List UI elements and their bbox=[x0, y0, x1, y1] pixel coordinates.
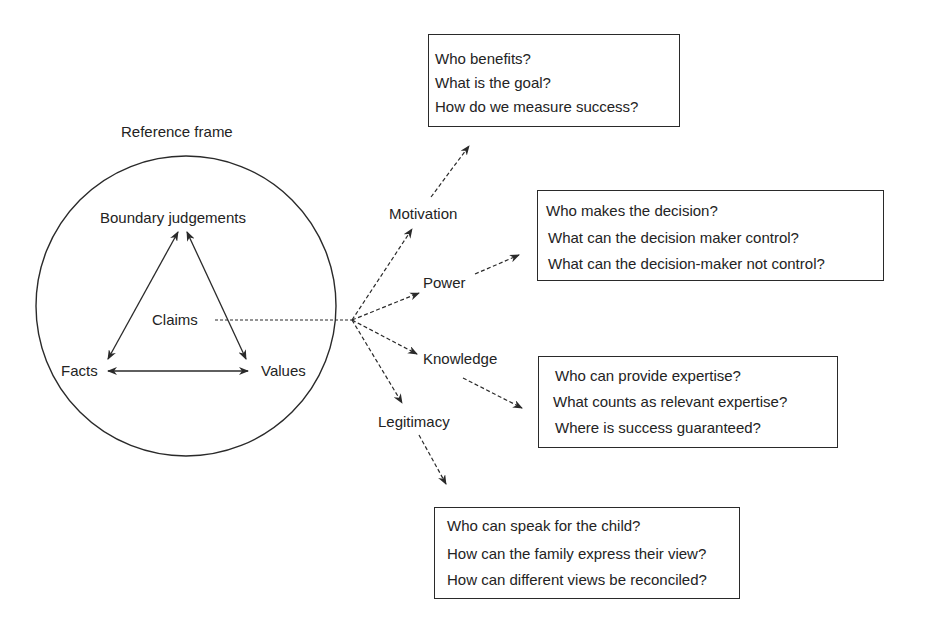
question: Where is success guaranteed? bbox=[555, 420, 761, 436]
question: What can the decision-maker not control? bbox=[548, 256, 825, 272]
dimension-knowledge: Knowledge bbox=[423, 351, 497, 367]
question: What can the decision maker control? bbox=[548, 230, 799, 246]
question: What is the goal? bbox=[435, 75, 551, 91]
arrow-legitimacy-box bbox=[419, 435, 446, 484]
node-claims: Claims bbox=[152, 312, 198, 328]
question: Who benefits? bbox=[435, 51, 531, 67]
dimension-motivation: Motivation bbox=[389, 206, 457, 222]
node-facts: Facts bbox=[61, 363, 98, 379]
arrow-power-box bbox=[475, 255, 519, 274]
reference-frame-circle bbox=[36, 156, 336, 456]
question: How can different views be reconciled? bbox=[447, 572, 707, 588]
question: How do we measure success? bbox=[435, 99, 638, 115]
node-boundary-judgements: Boundary judgements bbox=[100, 210, 246, 226]
question: Who can provide expertise? bbox=[555, 368, 741, 384]
question: Who can speak for the child? bbox=[447, 518, 640, 534]
node-values: Values bbox=[261, 363, 306, 379]
questions-box-motivation: Who benefits? What is the goal? How do w… bbox=[428, 34, 680, 127]
dimension-power: Power bbox=[423, 275, 466, 291]
arrow-knowledge-box bbox=[463, 378, 522, 408]
arrow-hub-power bbox=[352, 293, 419, 320]
arrow-facts-boundary bbox=[108, 232, 178, 359]
arrow-motivation-box bbox=[431, 146, 469, 197]
question: How can the family express their view? bbox=[447, 546, 706, 562]
arrow-values-boundary bbox=[187, 232, 246, 359]
dimension-legitimacy: Legitimacy bbox=[378, 414, 450, 430]
arrow-hub-motivation bbox=[352, 229, 412, 320]
questions-box-power: Who makes the decision? What can the dec… bbox=[537, 190, 884, 281]
questions-box-knowledge: Who can provide expertise? What counts a… bbox=[538, 356, 838, 448]
reference-frame-title: Reference frame bbox=[121, 124, 233, 140]
question: Who makes the decision? bbox=[546, 203, 718, 219]
question: What counts as relevant expertise? bbox=[553, 394, 787, 410]
questions-box-legitimacy: Who can speak for the child? How can the… bbox=[434, 507, 740, 599]
